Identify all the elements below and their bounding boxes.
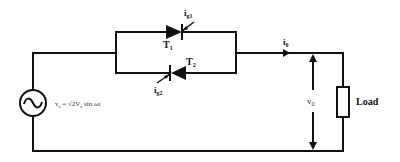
t1-gate-label: ig1 xyxy=(184,8,193,19)
t1-label: T1 xyxy=(163,39,173,51)
load: Load xyxy=(337,87,379,117)
t2-label: T2 xyxy=(186,56,196,68)
wire-right-top xyxy=(236,53,343,87)
t2-gate-label: ig2 xyxy=(154,85,163,96)
wire-left-bottom xyxy=(33,116,343,151)
parallel-left-branch xyxy=(116,32,166,73)
v0-arrow-down-icon xyxy=(309,142,317,150)
circuit-diagram: vs = √2Vs sin ωt ig1 T1 ig2 T2 i0 v0 Loa… xyxy=(0,0,400,162)
load-resistor-box xyxy=(337,87,349,117)
load-label: Load xyxy=(356,96,379,107)
t2-triangle-icon xyxy=(171,66,186,80)
thyristor-t2: ig2 T2 xyxy=(154,56,196,96)
output-voltage: v0 xyxy=(307,54,317,150)
current-arrow-icon xyxy=(283,49,290,57)
ac-source: vs = √2Vs sin ωt xyxy=(20,90,101,116)
v0-label: v0 xyxy=(307,96,315,107)
i0-label: i0 xyxy=(283,37,289,48)
t1-triangle-icon xyxy=(166,25,182,39)
v0-arrow-up-icon xyxy=(309,54,317,62)
wiring xyxy=(33,32,343,151)
thyristor-t1: ig1 T1 xyxy=(163,8,194,51)
source-formula: vs = √2Vs sin ωt xyxy=(55,100,101,109)
wire-left-top xyxy=(33,53,116,90)
